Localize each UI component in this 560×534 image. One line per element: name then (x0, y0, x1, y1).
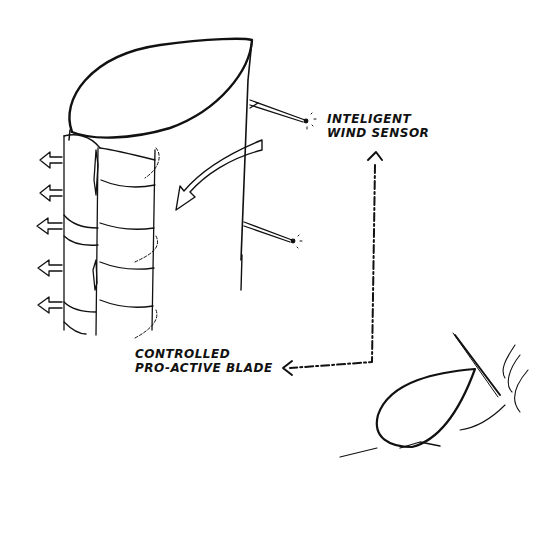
arrow-head-up (368, 152, 382, 160)
wind-sensor-upper (250, 100, 316, 129)
sketch-drawing (0, 0, 560, 534)
sketch-diagram: INTELIGENT WIND SENSOR CONTROLLED PRO-AC… (0, 0, 560, 534)
exhaust-arrows (37, 152, 62, 313)
label-line: INTELIGENT (327, 112, 429, 126)
wind-sensor-lower (244, 222, 302, 248)
blade-panels (64, 135, 155, 335)
blade-motion-arrows (135, 148, 159, 338)
blade-label: CONTROLLED PRO-ACTIVE BLADE (135, 347, 273, 375)
label-line: PRO-ACTIVE BLADE (135, 361, 273, 375)
wind-arrow (176, 140, 262, 210)
leader-lines (290, 165, 375, 368)
plan-view-section (340, 333, 528, 457)
label-line: WIND SENSOR (327, 126, 429, 140)
wind-sensor-label: INTELIGENT WIND SENSOR (327, 112, 429, 140)
label-line: CONTROLLED (135, 347, 273, 361)
